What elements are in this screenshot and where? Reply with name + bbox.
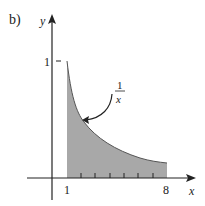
panel-label: b)	[9, 14, 21, 26]
y-tick-label-1: 1	[44, 56, 50, 68]
x-axis-label: x	[189, 185, 194, 197]
y-axis-label: y	[40, 15, 45, 27]
annotation-numerator: 1	[117, 79, 123, 91]
x-tick-label-1: 1	[64, 184, 70, 196]
annotation-denominator: x	[116, 93, 121, 105]
annotation-arrow	[86, 94, 112, 120]
x-tick-label-8: 8	[163, 184, 169, 196]
chart-plot	[0, 0, 205, 206]
